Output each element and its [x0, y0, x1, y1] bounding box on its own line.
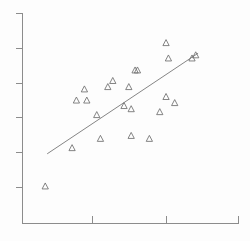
data-point-marker [81, 86, 87, 92]
regression-line [47, 53, 198, 154]
scatter-plot-figure [0, 0, 250, 241]
data-point-marker [121, 103, 127, 109]
data-point-marker [97, 135, 103, 141]
data-point-marker [105, 84, 111, 90]
plot-canvas [0, 0, 250, 241]
data-point-marker [73, 97, 79, 103]
data-point-marker [128, 132, 134, 138]
regression-line-path [47, 53, 198, 154]
y-axis [16, 13, 23, 224]
data-point-marker [128, 106, 134, 112]
data-point-marker [69, 145, 75, 151]
data-point-marker [126, 84, 132, 90]
data-point-marker [42, 183, 48, 189]
data-point-marker [163, 93, 169, 99]
data-point-marker [163, 40, 169, 46]
data-point-marker [172, 100, 178, 106]
data-point-marker [146, 135, 152, 141]
data-point-marker [110, 77, 116, 83]
data-point-marker [94, 112, 100, 118]
x-axis [23, 216, 240, 224]
data-point-marker [157, 109, 163, 115]
data-point-marker [84, 97, 90, 103]
data-point-markers [42, 40, 199, 189]
data-point-marker [165, 55, 171, 61]
